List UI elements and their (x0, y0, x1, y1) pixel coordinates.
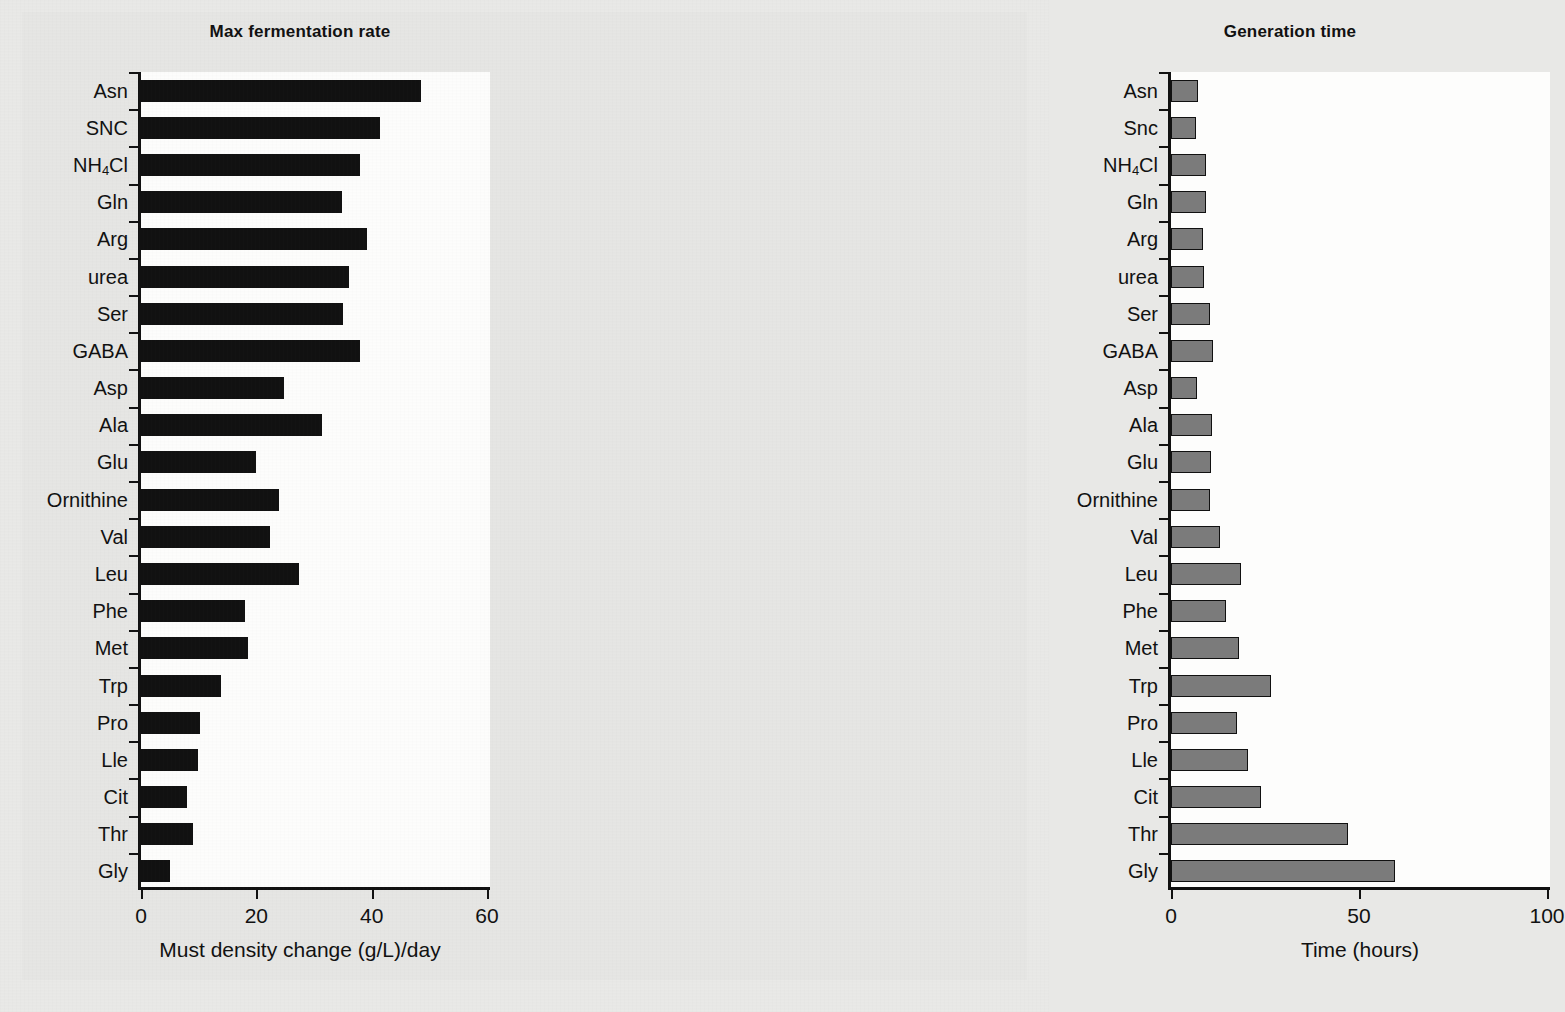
y-axis-tick (129, 630, 138, 632)
bar-thr (141, 823, 193, 845)
bar-ser (1171, 303, 1210, 325)
bar-met (1171, 637, 1239, 659)
y-axis-tick (129, 593, 138, 595)
y-axis-tick (129, 667, 138, 669)
x-axis-tick (141, 890, 143, 899)
x-axis-tick (1359, 890, 1361, 899)
y-axis-tick (1159, 593, 1168, 595)
category-label-gln: Gln (0, 192, 128, 212)
y-axis-tick (129, 146, 138, 148)
category-label-ala: Ala (0, 415, 128, 435)
y-axis-tick (1159, 555, 1168, 557)
x-axis-line-left (138, 887, 490, 890)
category-label-urea: urea (0, 267, 128, 287)
y-axis-tick (129, 481, 138, 483)
category-label-ser: Ser (0, 304, 128, 324)
y-axis-tick (129, 816, 138, 818)
plot-area-left (138, 72, 490, 890)
x-tick-label-60: 60 (475, 904, 498, 928)
bar-gln (1171, 191, 1206, 213)
y-axis-tick (129, 853, 138, 855)
y-axis-tick (1159, 778, 1168, 780)
y-axis-tick (1159, 853, 1168, 855)
y-axis-tick (129, 295, 138, 297)
bar-leu (141, 563, 299, 585)
y-axis-tick (129, 518, 138, 520)
y-axis-tick (1159, 481, 1168, 483)
bar-pro (1171, 712, 1237, 734)
bar-gln (141, 191, 342, 213)
category-label-ser: Ser (530, 304, 1158, 324)
y-axis-tick (129, 72, 138, 74)
category-label-leu: Leu (530, 564, 1158, 584)
bar-cit (1171, 786, 1261, 808)
category-label-asn: Asn (0, 81, 128, 101)
category-label-pro: Pro (530, 713, 1158, 733)
x-axis-label-right: Time (hours) (1170, 938, 1550, 962)
y-axis-tick (1159, 221, 1168, 223)
y-axis-tick (129, 332, 138, 334)
y-axis-tick (1159, 109, 1168, 111)
chart-title-left: Max fermentation rate (120, 22, 480, 42)
x-tick-label-0: 0 (1165, 904, 1177, 928)
x-tick-label-20: 20 (245, 904, 268, 928)
y-axis-tick (1159, 741, 1168, 743)
bar-asn (1171, 80, 1198, 102)
category-label-glu: Glu (0, 452, 128, 472)
y-axis-tick (129, 184, 138, 186)
bar-val (1171, 526, 1220, 548)
y-axis-tick (1159, 667, 1168, 669)
bar-gly (141, 860, 170, 882)
y-axis-tick (129, 741, 138, 743)
y-axis-tick (1159, 332, 1168, 334)
y-axis-tick (1159, 184, 1168, 186)
category-label-cit: Cit (0, 787, 128, 807)
category-label-pro: Pro (0, 713, 128, 733)
category-label-thr: Thr (0, 824, 128, 844)
y-axis-tick (1159, 704, 1168, 706)
category-label-asp: Asp (530, 378, 1158, 398)
category-label-leu: Leu (0, 564, 128, 584)
bar-ser (141, 303, 343, 325)
bar-lle (1171, 749, 1248, 771)
y-axis-tick (129, 369, 138, 371)
category-label-val: Val (0, 527, 128, 547)
bar-leu (1171, 563, 1241, 585)
bar-thr (1171, 823, 1348, 845)
category-label-trp: Trp (0, 676, 128, 696)
category-label-ornithine: Ornithine (0, 490, 128, 510)
category-label-ala: Ala (530, 415, 1158, 435)
category-label-met: Met (0, 638, 128, 658)
category-label-asp: Asp (0, 378, 128, 398)
y-axis-tick (129, 407, 138, 409)
y-axis-tick (1159, 146, 1168, 148)
x-tick-label-40: 40 (360, 904, 383, 928)
bar-lle (141, 749, 198, 771)
y-axis-tick (1159, 444, 1168, 446)
category-label-ornithine: Ornithine (530, 490, 1158, 510)
bar-gaba (1171, 340, 1213, 362)
bar-snc (141, 117, 380, 139)
x-axis-tick (1547, 890, 1549, 899)
bar-val (141, 526, 270, 548)
category-label-thr: Thr (530, 824, 1158, 844)
category-label-phe: Phe (0, 601, 128, 621)
category-label-met: Met (530, 638, 1158, 658)
y-axis-tick (1159, 407, 1168, 409)
bar-met (141, 637, 248, 659)
bar-phe (1171, 600, 1226, 622)
y-axis-tick (129, 109, 138, 111)
y-axis-tick (1159, 258, 1168, 260)
bar-gly (1171, 860, 1395, 882)
category-label-phe: Phe (530, 601, 1158, 621)
category-label-gln: Gln (530, 192, 1158, 212)
bar-urea (1171, 266, 1204, 288)
bar-ala (141, 414, 322, 436)
y-axis-tick (129, 704, 138, 706)
bar-urea (141, 266, 349, 288)
category-label-nh4cl: NH4Cl (0, 155, 128, 175)
y-axis-tick (1159, 369, 1168, 371)
category-label-trp: Trp (530, 676, 1158, 696)
y-axis-tick (1159, 816, 1168, 818)
y-axis-tick (129, 778, 138, 780)
